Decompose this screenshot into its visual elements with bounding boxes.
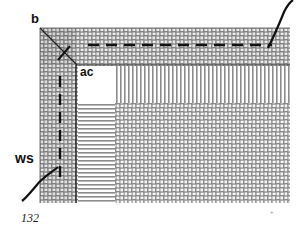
weave-diagram: + [0,0,305,233]
horizontal-stripe-region [78,103,115,203]
label-ws: ws [15,150,34,166]
vertical-stripe-region [115,66,290,103]
label-b: b [31,11,39,26]
figure-number: 132 [21,211,39,226]
svg-text:+: + [270,209,274,215]
label-ac: ac [79,66,94,78]
